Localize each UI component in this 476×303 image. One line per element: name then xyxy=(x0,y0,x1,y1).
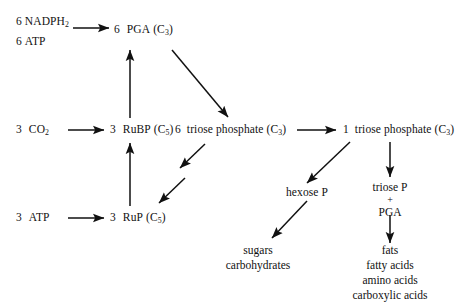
pga-carbon-number: 3 xyxy=(165,28,169,37)
rubp-coefficient: 3 xyxy=(110,123,116,135)
arrow-hexose-to-sugars xyxy=(272,201,307,238)
arrow-triose6-to-rup-step1 xyxy=(180,144,205,168)
node-sugars-carbohydrates: sugars carbohydrates xyxy=(203,243,313,273)
amino-acids-label: amino acids xyxy=(335,273,445,288)
node-rup: 3RuP(C5) xyxy=(110,210,166,225)
fats-label: fats xyxy=(335,243,445,258)
plus-sign: + xyxy=(358,195,422,206)
node-atp-top: 6ATP xyxy=(16,34,46,49)
node-triose-phosphate-6: 6triose phosphate(C3) xyxy=(175,122,286,137)
triose1-carbon-open: (C xyxy=(435,123,447,135)
node-rubp: 3RuBP(C5) xyxy=(110,122,173,137)
atp-bottom-coefficient: 3 xyxy=(16,211,22,223)
rubp-carbon-number: 5 xyxy=(165,128,169,137)
pga-coefficient: 6 xyxy=(114,23,120,35)
pga-carbon-close: ) xyxy=(169,23,173,35)
rup-carbon-open: (C xyxy=(146,211,158,223)
node-atp-bottom: 3ATP xyxy=(16,210,50,225)
triose6-coefficient: 6 xyxy=(175,123,181,135)
node-nadph: 6NADPH2 xyxy=(16,14,69,29)
node-co2: 3CO2 xyxy=(16,122,49,137)
triose6-label: triose phosphate xyxy=(187,123,264,135)
arrow-pga-to-triose6 xyxy=(172,50,228,117)
rup-label: RuP xyxy=(123,211,143,223)
carbohydrates-label: carbohydrates xyxy=(203,258,313,273)
atp-top-coefficient: 6 xyxy=(16,35,22,47)
sugars-label: sugars xyxy=(203,243,313,258)
triose1-coefficient: 1 xyxy=(343,123,349,135)
nadph-label: NADPH xyxy=(25,15,65,27)
triose-p-label: triose P xyxy=(358,180,422,195)
triose1-carbon-number: 3 xyxy=(446,128,450,137)
pga-carbon-open: (C xyxy=(153,23,165,35)
co2-coefficient: 3 xyxy=(16,123,22,135)
rup-carbon-number: 5 xyxy=(158,216,162,225)
pga-secondary-label: PGA xyxy=(358,205,422,220)
triose1-carbon-close: ) xyxy=(450,123,454,135)
rubp-carbon-close: ) xyxy=(169,123,173,135)
nadph-coefficient: 6 xyxy=(16,15,22,27)
hexose-p-label: hexose P xyxy=(286,186,328,198)
arrow-triose6-to-rup-step2 xyxy=(159,178,185,203)
triose6-carbon-open: (C xyxy=(267,123,279,135)
node-triose-phosphate-1: 1triose phosphate(C3) xyxy=(343,122,454,137)
atp-top-label: ATP xyxy=(25,35,46,47)
co2-label: CO xyxy=(29,123,45,135)
atp-bottom-label: ATP xyxy=(29,211,50,223)
rup-carbon-close: ) xyxy=(162,211,166,223)
rubp-carbon-open: (C xyxy=(154,123,166,135)
triose6-carbon-close: ) xyxy=(282,123,286,135)
co2-subscript: 2 xyxy=(45,128,49,137)
node-triose-p-plus-pga: triose P + PGA xyxy=(358,180,422,220)
rubp-label: RuBP xyxy=(123,123,151,135)
node-fats-products: fats fatty acids amino acids carboxylic … xyxy=(335,243,445,303)
node-hexose-p: hexose P xyxy=(275,185,339,200)
carboxylic-acids-label: carboxylic acids xyxy=(335,288,445,303)
triose6-carbon-number: 3 xyxy=(278,128,282,137)
arrow-triose1-to-hexose xyxy=(307,142,350,183)
fatty-acids-label: fatty acids xyxy=(335,258,445,273)
pga-label: PGA xyxy=(127,23,150,35)
rup-coefficient: 3 xyxy=(110,211,116,223)
calvin-cycle-diagram: 6NADPH2 6ATP 6PGA(C3) 3CO2 3RuBP(C5) 6tr… xyxy=(0,0,476,303)
triose1-label: triose phosphate xyxy=(355,123,432,135)
node-pga: 6PGA(C3) xyxy=(114,22,173,37)
nadph-subscript: 2 xyxy=(65,20,69,29)
